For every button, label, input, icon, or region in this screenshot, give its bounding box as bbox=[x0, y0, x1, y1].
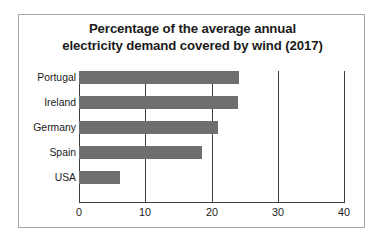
bar-usa bbox=[79, 171, 120, 184]
xtick-label-30: 30 bbox=[263, 205, 293, 219]
xtick-label-10: 10 bbox=[130, 205, 160, 219]
category-label-germany: Germany bbox=[21, 121, 79, 134]
xtick-label-40: 40 bbox=[329, 205, 359, 219]
xtick-label-20: 20 bbox=[197, 205, 227, 219]
category-label-portugal: Portugal bbox=[21, 71, 79, 84]
gridline-40 bbox=[344, 71, 345, 202]
bar-ireland bbox=[79, 96, 238, 109]
chart-title: Percentage of the average annual electri… bbox=[19, 21, 366, 54]
chart-title-line-2: electricity demand covered by wind (2017… bbox=[19, 38, 366, 55]
category-label-spain: Spain bbox=[21, 146, 79, 159]
gridline-20 bbox=[212, 71, 213, 202]
xtick-label-0: 0 bbox=[64, 205, 94, 219]
bar-spain bbox=[79, 146, 202, 159]
plot-area bbox=[79, 71, 344, 202]
category-label-ireland: Ireland bbox=[21, 96, 79, 109]
x-axis-line bbox=[79, 202, 345, 203]
gridline-10 bbox=[145, 71, 146, 202]
category-axis-labels: Portugal Ireland Germany Spain USA bbox=[19, 71, 79, 202]
gridline-30 bbox=[278, 71, 279, 202]
bar-germany bbox=[79, 121, 218, 134]
category-label-usa: USA bbox=[21, 171, 79, 184]
bar-portugal bbox=[79, 71, 239, 84]
value-axis-labels: 0 10 20 30 40 bbox=[19, 205, 366, 223]
chart-figure-frame: Percentage of the average annual electri… bbox=[18, 14, 365, 228]
chart-title-line-1: Percentage of the average annual bbox=[19, 21, 366, 38]
